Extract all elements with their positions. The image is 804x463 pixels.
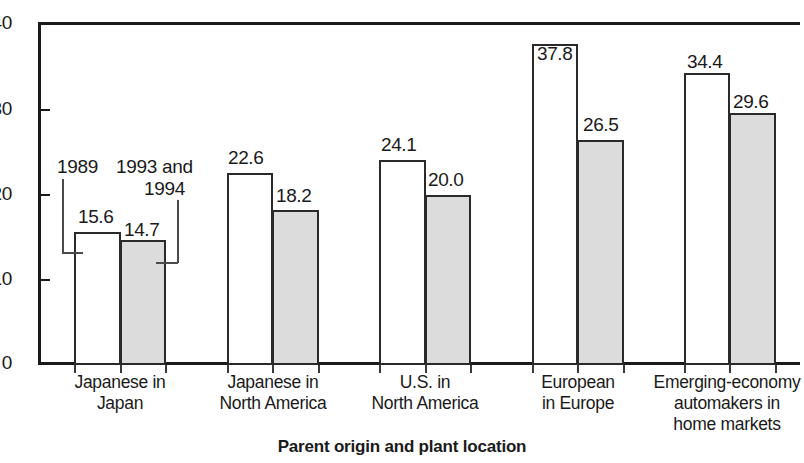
category-label-us-in-north-america: U.S. in North America [348,372,502,414]
category-label-line: automakers in [650,393,804,414]
series-annotation-1993-1994-line1: 1993 and [116,156,193,177]
y-tick-30 [41,109,50,111]
category-label-line: European [506,372,650,393]
value-label-1993-1994-emerging-economy: 29.6 [733,92,768,111]
category-label-line: Japan [48,393,192,414]
category-label-line: U.S. in [348,372,502,393]
value-label-1989-japanese-in-north-america: 22.6 [228,148,263,167]
value-label-1993-1994-us-in-north-america: 20.0 [428,170,463,189]
value-label-1989-emerging-economy: 34.4 [687,52,722,71]
value-label-1993-1994-european-in-europe: 26.5 [583,115,618,134]
y-tick-label-10: 10 [0,269,12,288]
bar-1993-1994-japanese-in-japan [120,240,166,365]
series-annotation-1993-1994-line2: 1994 [144,178,185,199]
value-label-1989-us-in-north-america: 24.1 [381,135,416,154]
y-tick-10 [41,279,50,281]
leader-line-1989-vertical [62,179,64,253]
bar-1993-1994-japanese-in-north-america [272,210,319,365]
value-label-1993-1994-japanese-in-japan: 14.7 [124,220,159,239]
category-label-japanese-in-north-america: Japanese in North America [196,372,350,414]
value-label-1989-japanese-in-japan: 15.6 [78,207,113,226]
category-label-line: Japanese in [48,372,192,393]
series-annotation-1989: 1989 [57,156,98,177]
bar-1989-japanese-in-north-america [227,173,273,365]
value-label-1993-1994-japanese-in-north-america: 18.2 [276,186,311,205]
bar-1989-emerging-economy [684,73,730,365]
category-label-line: Japanese in [196,372,350,393]
leader-line-1993-1994-vertical [177,200,179,263]
bar-1993-1994-emerging-economy [729,113,776,365]
y-tick-label-40: 40 [0,13,12,32]
y-tick-label-0: 0 [0,353,12,372]
bar-1993-1994-us-in-north-america [425,195,471,365]
leader-line-1993-1994-horizontal [156,262,178,264]
y-tick-label-20: 20 [0,184,12,203]
category-label-line: home markets [650,414,804,435]
category-label-line: in Europe [506,393,650,414]
plot-top-rule [38,22,800,25]
category-label-line: Emerging-economy [650,372,804,393]
category-label-emerging-economy: Emerging-economy automakers in home mark… [650,372,804,435]
category-label-japanese-in-japan: Japanese in Japan [48,372,192,414]
leader-line-1989-horizontal [62,252,83,254]
category-label-line: North America [196,393,350,414]
bar-1989-european-in-europe [532,44,578,365]
value-label-1989-european-in-europe: 37.8 [537,44,572,63]
y-tick-label-30: 30 [0,99,12,118]
bar-chart: 0 10 20 30 40 15.6 14.7 22.6 18.2 24.1 2… [0,0,804,463]
bar-1989-us-in-north-america [379,160,426,365]
category-label-european-in-europe: European in Europe [506,372,650,414]
category-label-line: North America [348,393,502,414]
bar-1993-1994-european-in-europe [577,140,624,365]
x-axis-title: Parent origin and plant location [0,437,804,457]
y-tick-20 [41,194,50,196]
